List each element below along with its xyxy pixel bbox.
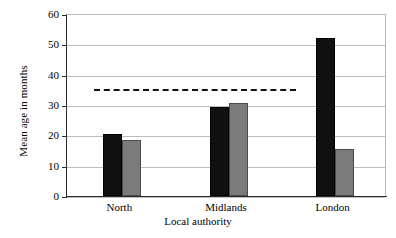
plot-area: 0102030405060 — [66, 14, 386, 196]
y-tick-mark — [62, 15, 67, 16]
y-tick-mark — [62, 76, 67, 77]
bar-midlands-black-bars — [210, 107, 229, 196]
y-tick-label: 40 — [21, 70, 59, 81]
bar-north-grey-bars — [122, 140, 141, 196]
y-tick-label: 10 — [21, 161, 59, 172]
bar-midlands-grey-bars — [229, 103, 248, 196]
x-axis-line — [66, 196, 387, 197]
bar-london-grey-bars — [335, 149, 354, 196]
y-tick-label: 20 — [21, 130, 59, 141]
y-tick-label: 50 — [21, 39, 59, 50]
x-tick-label-midlands: Midlands — [181, 201, 271, 214]
x-tick-label-london: London — [288, 201, 378, 214]
gridline — [67, 197, 385, 198]
bar-north-black-bars — [103, 134, 122, 196]
y-tick-mark — [62, 106, 67, 107]
y-tick-label: 30 — [21, 100, 59, 111]
y-tick-mark — [62, 167, 67, 168]
bar-london-black-bars — [316, 38, 335, 196]
gridline — [67, 45, 385, 46]
y-tick-mark — [62, 45, 67, 46]
bar-chart: Mean age in months 0102030405060 Local a… — [0, 0, 396, 238]
x-axis-title: Local authority — [0, 215, 396, 228]
y-tick-mark — [62, 197, 67, 198]
y-tick-mark — [62, 136, 67, 137]
y-tick-label: 0 — [21, 191, 59, 202]
reference-line — [94, 89, 296, 91]
gridline — [67, 76, 385, 77]
y-tick-label: 60 — [21, 9, 59, 20]
x-tick-label-north: North — [74, 201, 164, 214]
